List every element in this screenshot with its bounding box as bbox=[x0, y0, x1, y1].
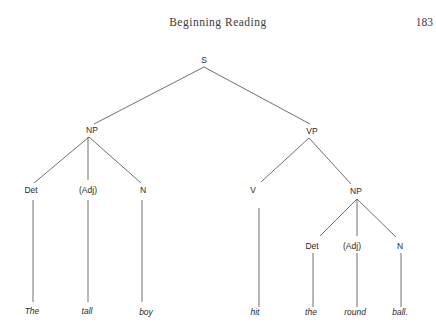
node-np-object: NP bbox=[350, 186, 362, 196]
node-det-object: Det bbox=[305, 241, 318, 251]
node-v: V bbox=[250, 185, 256, 195]
node-vp: VP bbox=[306, 126, 317, 136]
node-np-subject: NP bbox=[86, 125, 98, 135]
node-n-subject: N bbox=[140, 185, 146, 195]
tree-diagram-lines bbox=[0, 0, 436, 335]
word-hit: hit bbox=[251, 307, 260, 317]
word-the: The bbox=[25, 306, 40, 316]
word-tall: tall bbox=[82, 306, 93, 316]
node-adj-object: (Adj) bbox=[343, 241, 361, 251]
word-ball: ball. bbox=[392, 307, 408, 317]
word-the-object: the bbox=[305, 307, 317, 317]
node-n-object: N bbox=[397, 241, 403, 251]
node-s: S bbox=[201, 55, 207, 65]
word-round: round bbox=[344, 307, 366, 317]
word-boy: boy bbox=[139, 307, 153, 317]
node-adj-subject: (Adj) bbox=[79, 185, 97, 195]
node-det-subject: Det bbox=[24, 185, 37, 195]
